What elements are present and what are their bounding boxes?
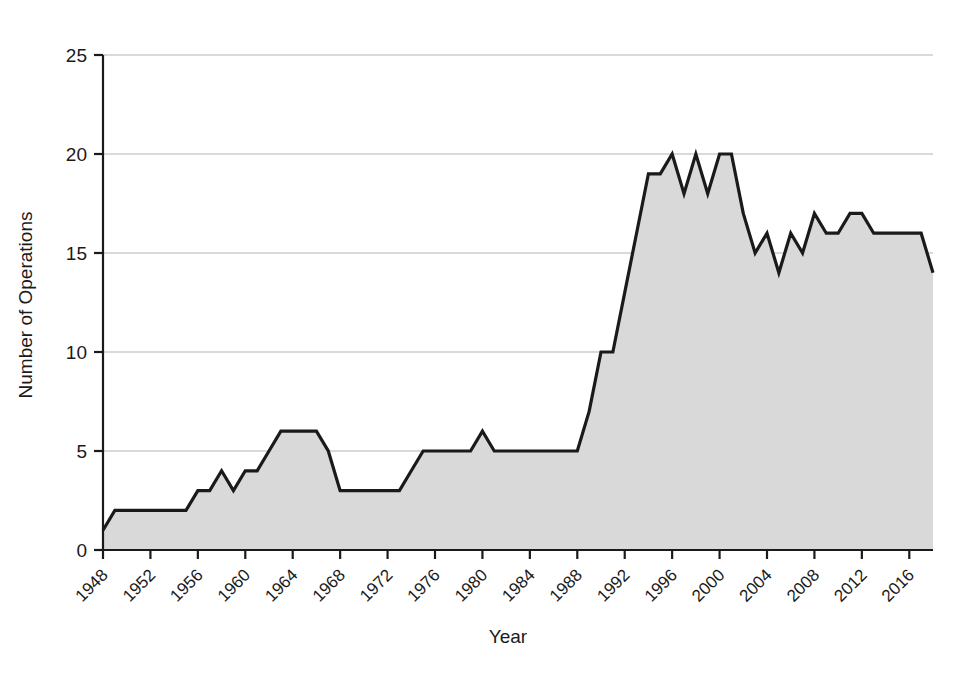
x-tick-label-1992: 1992 bbox=[593, 565, 633, 605]
x-tick-label-1980: 1980 bbox=[451, 565, 491, 605]
y-tick-label-5: 5 bbox=[76, 441, 87, 462]
y-tick-label-15: 15 bbox=[66, 243, 87, 264]
x-tick-label-1960: 1960 bbox=[214, 565, 254, 605]
x-axis-ticks-group: 1948195219561960196419681972197619801984… bbox=[72, 550, 918, 606]
x-tick-label-1964: 1964 bbox=[261, 565, 301, 605]
x-tick-label-2016: 2016 bbox=[878, 565, 918, 605]
area-chart: 0510152025 19481952195619601964196819721… bbox=[0, 0, 968, 679]
x-tick-label-1988: 1988 bbox=[546, 565, 586, 605]
x-tick-label-2000: 2000 bbox=[688, 565, 728, 605]
y-tick-label-10: 10 bbox=[66, 342, 87, 363]
y-tick-label-25: 25 bbox=[66, 45, 87, 66]
x-tick-label-1976: 1976 bbox=[404, 565, 444, 605]
x-tick-label-2004: 2004 bbox=[736, 565, 776, 605]
x-tick-label-1948: 1948 bbox=[72, 565, 112, 605]
y-tick-label-20: 20 bbox=[66, 144, 87, 165]
y-axis-ticks-group: 0510152025 bbox=[66, 45, 103, 561]
x-axis-title: Year bbox=[489, 626, 528, 647]
x-tick-label-1952: 1952 bbox=[119, 565, 159, 605]
x-tick-label-1972: 1972 bbox=[356, 565, 396, 605]
x-tick-label-1956: 1956 bbox=[167, 565, 207, 605]
x-tick-label-1996: 1996 bbox=[641, 565, 681, 605]
y-tick-label-0: 0 bbox=[76, 540, 87, 561]
y-axis-title: Number of Operations bbox=[15, 212, 36, 399]
x-tick-label-2012: 2012 bbox=[831, 565, 871, 605]
x-tick-label-1984: 1984 bbox=[499, 565, 539, 605]
x-tick-label-1968: 1968 bbox=[309, 565, 349, 605]
x-tick-label-2008: 2008 bbox=[783, 565, 823, 605]
chart-container: 0510152025 19481952195619601964196819721… bbox=[0, 0, 968, 679]
